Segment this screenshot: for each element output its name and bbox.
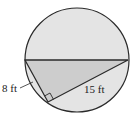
short-leg-label: 8 ft xyxy=(2,82,17,94)
long-leg-label: 15 ft xyxy=(84,83,104,95)
diagram-canvas: 8 ft 15 ft xyxy=(0,0,137,117)
